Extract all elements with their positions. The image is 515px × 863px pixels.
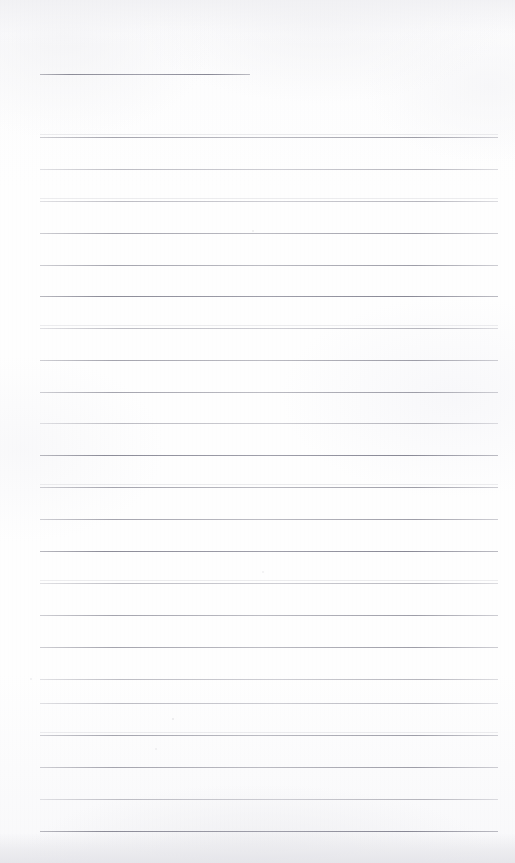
rule-line: [40, 487, 498, 488]
rule-line-first-short: [40, 74, 250, 75]
faint-speck-lower-mid: [155, 748, 157, 750]
rule-line: [40, 296, 498, 297]
rule-line-ghost: [40, 198, 498, 199]
faint-speck-upper-mid: [252, 230, 254, 232]
rule-line: [40, 169, 498, 170]
rule-line: [40, 799, 498, 800]
rule-line: [40, 360, 498, 361]
paper-grain-texture: [0, 0, 515, 863]
rule-line: [40, 423, 498, 424]
rule-line: [40, 767, 498, 768]
rule-line: [40, 233, 498, 234]
scan-bottom-shadow-band: [0, 833, 515, 863]
rule-line-ghost: [40, 325, 498, 326]
rule-line: [40, 201, 498, 202]
rule-line-ghost: [40, 484, 498, 485]
rule-line: [40, 551, 498, 552]
rule-line: [40, 735, 498, 736]
rule-line: [40, 137, 498, 138]
scanned-page: [0, 0, 515, 863]
rule-line: [40, 265, 498, 266]
faint-speck-mid: [262, 571, 264, 573]
rule-line: [40, 583, 498, 584]
faint-speck-left: [30, 678, 32, 680]
scan-top-shadow-band: [0, 0, 515, 48]
rule-line-ghost: [40, 580, 498, 581]
rule-line: [40, 647, 498, 648]
rule-line-ghost: [40, 134, 498, 135]
faint-speck-lower: [172, 718, 174, 720]
rule-line: [40, 392, 498, 393]
rule-line: [40, 831, 498, 832]
rule-line: [40, 519, 498, 520]
rule-line-ghost: [40, 732, 498, 733]
rule-line: [40, 703, 498, 704]
rule-line: [40, 679, 498, 680]
rule-line: [40, 328, 498, 329]
rule-line: [40, 455, 498, 456]
rule-line: [40, 615, 498, 616]
